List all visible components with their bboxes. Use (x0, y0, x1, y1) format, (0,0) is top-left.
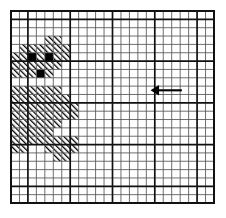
grid-cell-hatched (36, 111, 44, 119)
grid-cell-hatched (19, 44, 27, 52)
grid-cell-hatched (62, 44, 70, 52)
grid-cell-hatched (11, 111, 19, 119)
grid-cell-hatched (28, 111, 36, 119)
grid-cell-hatched (36, 120, 44, 128)
grid-cell-hatched (19, 61, 27, 69)
grid-cell-hatched (11, 86, 19, 94)
grid-cell-hatched (62, 136, 70, 144)
grid-cell-hatched (45, 120, 53, 128)
grid-cell-hatched (70, 103, 78, 111)
grid-cell-hatched (36, 94, 44, 102)
grid-cell-hatched (28, 136, 36, 144)
grid-cell-hatched (11, 128, 19, 136)
grid-cell-hatched (28, 44, 36, 52)
grid-cell-hatched (45, 103, 53, 111)
grid-cell-hatched (19, 86, 27, 94)
grid-cell-hatched (11, 145, 19, 153)
grid-cell-hatched (45, 86, 53, 94)
grid-cell-hatched (70, 136, 78, 144)
grid-cell-hatched (28, 120, 36, 128)
grid-cell-hatched (19, 120, 27, 128)
grid-cell-hatched (53, 103, 61, 111)
grid-cell-hatched (36, 136, 44, 144)
grid-cell-hatched (11, 53, 19, 61)
grid-cell-hatched (19, 136, 27, 144)
grid-cell-hatched (11, 136, 19, 144)
grid-cell-hatched (36, 53, 44, 61)
grid-cell-hatched (70, 145, 78, 153)
grid-cell-hatched (53, 120, 61, 128)
grid-cell-hatched (36, 128, 44, 136)
grid-cell-hatched (62, 111, 70, 119)
grid-cell-hatched (11, 120, 19, 128)
grid-cell-hatched (62, 94, 70, 102)
grid-cell-hatched (45, 136, 53, 144)
grid-cell-hatched (28, 103, 36, 111)
grid-cell-hatched (62, 53, 70, 61)
grid-cell-hatched (28, 94, 36, 102)
grid-cell-hatched (62, 153, 70, 161)
grid-cell-hatched (11, 103, 19, 111)
grid-cell-hatched (36, 61, 44, 69)
grid-cell-solid (45, 53, 53, 61)
grid-cell-hatched (70, 111, 78, 119)
grid-cell-hatched (45, 94, 53, 102)
grid-cell-hatched (19, 69, 27, 77)
grid-cell-hatched (19, 103, 27, 111)
grid-cell-hatched (36, 86, 44, 94)
grid-cell-hatched (28, 61, 36, 69)
grid-cell-hatched (11, 61, 19, 69)
grid-cell-hatched (53, 53, 61, 61)
grid-cell-hatched (53, 145, 61, 153)
grid-cell-hatched (19, 111, 27, 119)
grid-cell-hatched (19, 94, 27, 102)
grid-cell-hatched (19, 145, 27, 153)
grid-cell-hatched (53, 111, 61, 119)
grid-cell-hatched (45, 128, 53, 136)
grid-cell-hatched (28, 86, 36, 94)
grid-cell-hatched (45, 61, 53, 69)
grid-cell-hatched (62, 103, 70, 111)
grid-cell-hatched (53, 153, 61, 161)
grid-cell-hatched (36, 44, 44, 52)
grid-cell-hatched (11, 69, 19, 77)
grid-cell-hatched (28, 69, 36, 77)
grid-cell-hatched (53, 94, 61, 102)
grid-cell-hatched (53, 44, 61, 52)
grid-cell-solid (36, 69, 44, 77)
grid-cell-hatched (45, 145, 53, 153)
grid-cell-hatched (62, 145, 70, 153)
grid-cell-hatched (45, 44, 53, 52)
grid-cell-hatched (45, 111, 53, 119)
grid-cell-hatched (53, 36, 61, 44)
grid-cell-hatched (36, 103, 44, 111)
grid-cell-hatched (45, 36, 53, 44)
grid-figure (0, 0, 226, 218)
grid-cell-hatched (19, 53, 27, 61)
grid-cell-hatched (19, 128, 27, 136)
grid-cell-hatched (53, 86, 61, 94)
grid-cell-hatched (11, 94, 19, 102)
grid-cell-hatched (53, 61, 61, 69)
grid-cell-hatched (28, 128, 36, 136)
grid-cell-hatched (45, 69, 53, 77)
grid-canvas (0, 0, 226, 218)
grid-cell-hatched (53, 136, 61, 144)
grid-cell-solid (28, 53, 36, 61)
